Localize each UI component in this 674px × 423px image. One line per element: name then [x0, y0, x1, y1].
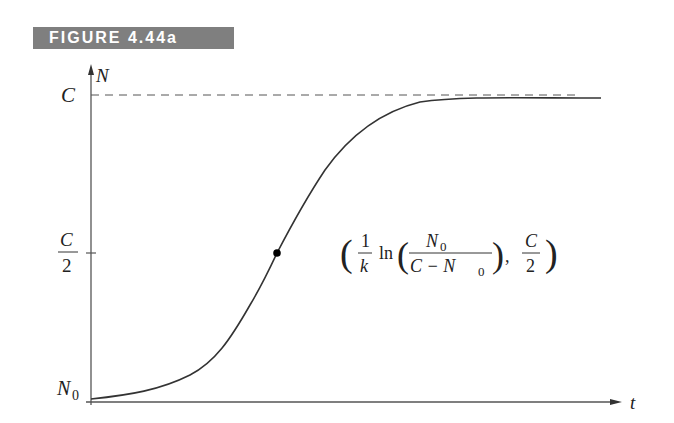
ann-n0: N	[425, 231, 439, 251]
tick-label-n0: N	[56, 377, 72, 399]
tick-label-c-half-num: C	[60, 229, 73, 250]
ann-two: 2	[526, 256, 535, 276]
ann-k: k	[360, 256, 369, 276]
ann-c: C	[525, 231, 538, 251]
inflection-annotation: ( 1 k ln ( N 0 C − N 0 ) , C 2 )	[340, 231, 558, 279]
x-axis-label: t	[630, 392, 636, 413]
paren-open: (	[340, 232, 353, 275]
logistic-chart: N t C C 2 N 0 ( 1 k ln ( N 0 C − N 0 ) ,…	[0, 0, 674, 423]
x-axis-arrow-icon	[610, 399, 622, 405]
inflection-point	[273, 249, 281, 257]
paren-close: )	[545, 232, 558, 275]
ann-comma: ,	[505, 246, 510, 266]
ann-one: 1	[361, 231, 370, 251]
ann-n0-sub: 0	[440, 239, 447, 254]
paren-open-inner: (	[397, 235, 409, 275]
y-axis-arrow-icon	[88, 64, 94, 75]
tick-label-n0-sub: 0	[72, 388, 79, 403]
y-axis-label: N	[95, 65, 110, 86]
ann-c-minus-sub: 0	[478, 264, 485, 279]
ann-c-minus-n0: C − N	[410, 256, 456, 276]
tick-label-c: C	[61, 83, 76, 107]
paren-close-inner: )	[492, 235, 504, 275]
tick-label-c-half-den: 2	[62, 255, 72, 276]
ann-ln: ln	[379, 243, 393, 263]
